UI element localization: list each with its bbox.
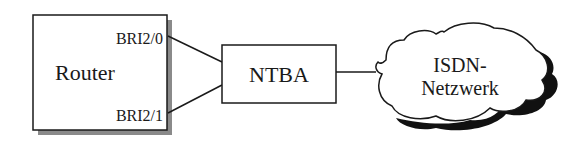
network-label-line1: ISDN-	[433, 54, 486, 76]
ntba-node: NTBA	[222, 45, 336, 103]
network-label-line2: Netzwerk	[421, 77, 499, 99]
port-bri2-0-label: BRI2/0	[116, 30, 163, 47]
link-bri2-0	[168, 36, 222, 62]
port-bri2-1-label: BRI2/1	[116, 107, 163, 124]
isdn-diagram: Router BRI2/0 BRI2/1 NTBA ISDN- Netzwerk	[0, 0, 588, 147]
router-node: Router BRI2/0 BRI2/1	[33, 15, 172, 135]
router-label: Router	[55, 60, 116, 85]
isdn-network-cloud: ISDN- Netzwerk	[376, 23, 558, 130]
link-bri2-1	[168, 85, 222, 113]
ntba-label: NTBA	[249, 62, 309, 87]
